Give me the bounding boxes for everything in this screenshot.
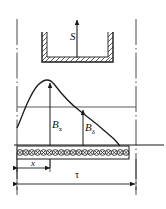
- x-dimension-label: x: [31, 159, 35, 168]
- bx-label: Bx: [52, 119, 62, 133]
- figure-canvas: S Bx Bδ x τ: [0, 0, 166, 209]
- bx-subscript: x: [59, 125, 62, 132]
- diagram-svg: [0, 0, 166, 209]
- tau-dimension-label: τ: [75, 170, 79, 180]
- motion-label: S: [70, 31, 76, 42]
- bdelta-base: B: [85, 121, 92, 133]
- bdelta-subscript: δ: [92, 128, 95, 135]
- bdelta-label: Bδ: [85, 122, 95, 136]
- bx-base: B: [52, 118, 59, 130]
